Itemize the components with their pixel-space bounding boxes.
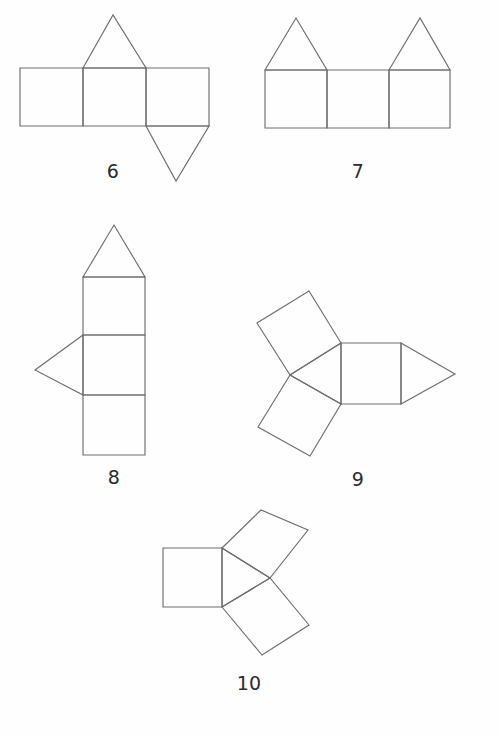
figure-10-triangle-center [222, 548, 270, 607]
figure-9-triangle-right [401, 343, 455, 404]
figure-8-triangle-top [83, 225, 145, 277]
figure-7-square-middle [327, 70, 389, 128]
figure-10-square-lower-right [222, 578, 309, 655]
figure-8 [35, 225, 145, 455]
figure-8-square-top [83, 277, 145, 335]
figure-9-square-lower-left [258, 375, 341, 456]
figure-6-label: 6 [107, 160, 119, 182]
figure-7-triangle-left [265, 18, 327, 70]
nets-drawing-canvas [0, 0, 499, 736]
figure-6-square-left [20, 68, 83, 126]
figure-6-triangle-top [83, 15, 146, 68]
figure-10-square-upper-right [222, 510, 308, 578]
worksheet-page: 678910 [0, 0, 499, 736]
figure-9-label: 9 [352, 468, 364, 490]
figure-6-square-middle [83, 68, 146, 126]
figure-7-triangle-right [389, 18, 450, 70]
figure-8-square-middle [83, 335, 145, 395]
figure-7-label: 7 [352, 160, 364, 182]
figure-6 [20, 15, 209, 181]
figure-10 [163, 510, 309, 655]
figure-8-square-bottom [83, 395, 145, 455]
figure-9 [257, 291, 455, 456]
figure-6-triangle-bottom [146, 126, 209, 181]
figure-10-label: 10 [237, 672, 262, 694]
figure-7 [265, 18, 450, 128]
figure-8-triangle-left [35, 335, 83, 395]
figure-9-triangle-center [290, 343, 341, 404]
figure-9-square-right [341, 343, 401, 404]
figure-6-square-right [146, 68, 209, 126]
figure-10-square-left [163, 548, 222, 607]
figure-9-square-upper-left [257, 291, 341, 375]
figure-7-square-right [389, 70, 450, 128]
figure-7-square-left [265, 70, 327, 128]
figure-8-label: 8 [108, 466, 120, 488]
